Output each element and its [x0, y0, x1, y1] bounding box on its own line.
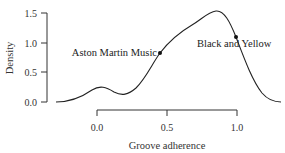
x-tick-label: 0.5: [161, 122, 174, 133]
x-tick-label: 1.0: [231, 122, 244, 133]
annotation-label: Aston Martin Music: [72, 47, 158, 58]
y-axis: 1.5 1.0 0.5 0.0 Density: [4, 8, 47, 108]
density-chart: 1.5 1.0 0.5 0.0 Density 0.0 0.5 1.0 Groo…: [0, 0, 285, 153]
annotation-black-and-yellow: Black and Yellow: [197, 35, 272, 49]
x-tick-label: 0.0: [91, 122, 104, 133]
annotation-aston-martin-music: Aston Martin Music: [72, 47, 162, 58]
data-point-marker: [158, 51, 162, 55]
x-axis-title: Groove adherence: [129, 140, 206, 151]
y-axis-title: Density: [4, 41, 15, 74]
y-tick-label: 0.0: [25, 97, 38, 108]
annotation-label: Black and Yellow: [197, 38, 272, 49]
y-tick-label: 1.5: [25, 8, 38, 19]
y-tick-label: 0.5: [25, 67, 38, 78]
x-axis: 0.0 0.5 1.0 Groove adherence: [91, 110, 244, 151]
y-tick-label: 1.0: [25, 38, 38, 49]
